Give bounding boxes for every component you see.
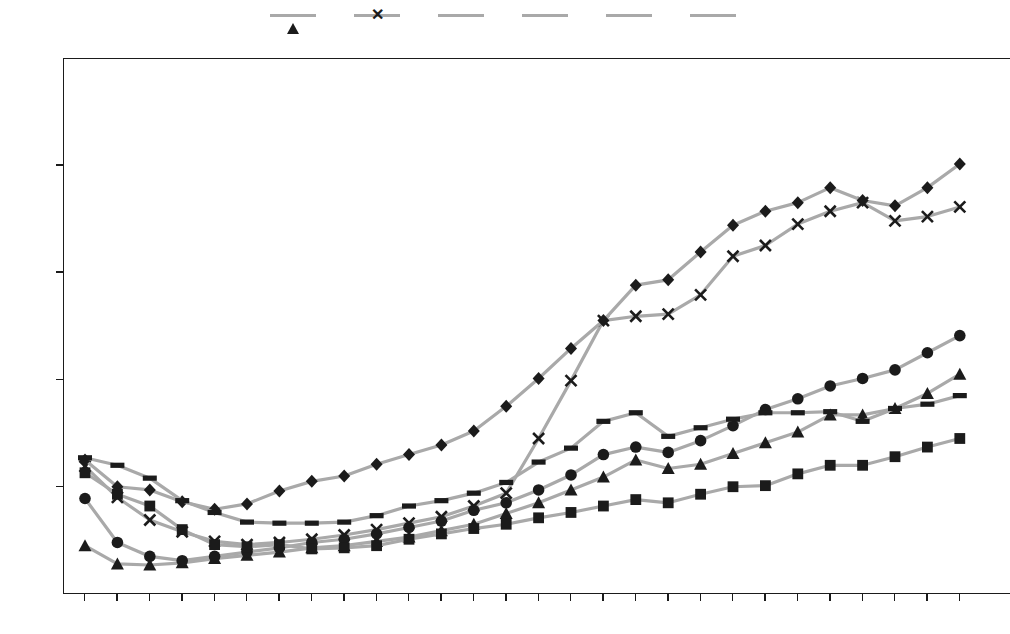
data-point: [79, 493, 91, 505]
data-point: [888, 406, 902, 411]
x-axis-tick-mark: [570, 594, 571, 601]
x-axis-tick-mark: [829, 594, 830, 601]
data-point: [80, 467, 91, 478]
data-point: [436, 515, 448, 527]
legend-item-belarus[interactable]: [438, 8, 488, 22]
series-line: [85, 164, 960, 509]
series-ukraine: [78, 393, 967, 526]
data-point: [209, 539, 220, 550]
data-point: [953, 368, 966, 380]
y-axis-tick-mark: [56, 486, 63, 488]
data-point: [177, 524, 188, 535]
data-point: [759, 205, 771, 218]
data-point: [728, 481, 739, 492]
series-line: [85, 203, 960, 545]
legend-item-moldova[interactable]: [606, 8, 656, 22]
dash-marker-icon: [690, 8, 736, 22]
data-point: [954, 433, 965, 444]
x-axis-tick-mark: [278, 594, 279, 601]
data-point: [791, 426, 804, 438]
data-point: [175, 498, 189, 503]
data-point: [726, 417, 740, 422]
data-point: [402, 503, 416, 508]
data-point: [272, 521, 286, 526]
data-point: [890, 451, 901, 462]
data-point: [695, 289, 706, 300]
data-point: [921, 387, 934, 399]
x-axis-tick-mark: [700, 594, 701, 601]
data-point: [144, 501, 155, 512]
data-point: [922, 347, 934, 359]
data-point: [434, 498, 448, 503]
y-axis-tick-mark: [56, 271, 63, 273]
data-point: [273, 485, 285, 498]
data-point: [758, 410, 772, 415]
data-point: [824, 380, 836, 392]
series-georgia: [79, 330, 965, 567]
data-point: [663, 497, 674, 508]
data-point: [371, 528, 383, 540]
legend-item-georgia[interactable]: [522, 8, 572, 22]
data-point: [953, 393, 967, 398]
data-point: [467, 491, 481, 496]
x-axis-tick-mark: [440, 594, 441, 601]
data-point: [371, 458, 383, 471]
data-point: [468, 505, 480, 517]
data-point: [110, 463, 124, 468]
data-point: [566, 507, 577, 518]
data-point: [630, 441, 642, 453]
data-point: [176, 555, 188, 567]
data-point: [533, 484, 545, 496]
square-marker-icon: [606, 8, 652, 22]
x-axis-tick-mark: [732, 594, 733, 601]
data-point: [240, 520, 254, 525]
data-point: [468, 523, 479, 534]
data-point: [305, 521, 319, 526]
data-point: [695, 435, 707, 447]
data-point: [208, 510, 222, 515]
data-point: [889, 199, 901, 212]
data-point: [954, 330, 966, 342]
x-axis-tick-mark: [181, 594, 182, 601]
x-axis-tick-mark: [408, 594, 409, 601]
series-line: [85, 336, 960, 561]
x-axis-tick-mark: [764, 594, 765, 601]
data-point: [629, 410, 643, 415]
x-axis-tick-mark: [926, 594, 927, 601]
data-point: [598, 449, 610, 461]
chart-root: ✕: [0, 0, 1010, 634]
data-point: [499, 480, 513, 485]
legend-item-armenia[interactable]: [270, 8, 320, 22]
data-point: [403, 448, 415, 461]
data-point: [112, 489, 123, 500]
data-point: [920, 402, 934, 407]
data-point: [564, 446, 578, 451]
legend-item-azerbaijan[interactable]: ✕: [354, 8, 404, 22]
x-axis-tick-mark: [214, 594, 215, 601]
data-point: [760, 480, 771, 491]
data-point: [371, 540, 382, 551]
x-axis-tick-mark: [84, 594, 85, 601]
legend-item-ukraine[interactable]: [690, 8, 740, 22]
series-line: [85, 438, 960, 548]
y-axis-tick-mark: [56, 379, 63, 381]
plot-area: [63, 58, 1010, 594]
data-point: [144, 483, 156, 496]
data-point: [209, 551, 221, 563]
data-point: [306, 475, 318, 488]
data-point: [824, 181, 836, 194]
data-point: [629, 453, 642, 465]
data-point: [662, 447, 674, 459]
data-point: [112, 537, 124, 549]
data-point: [566, 375, 577, 386]
data-point: [857, 373, 869, 385]
x-axis-tick-mark: [473, 594, 474, 601]
data-point: [792, 468, 803, 479]
data-point: [792, 393, 804, 405]
data-point: [630, 494, 641, 505]
x-axis-tick-mark: [667, 594, 668, 601]
data-point: [922, 442, 933, 453]
data-point: [435, 438, 447, 451]
data-point: [598, 501, 609, 512]
data-point: [339, 542, 350, 553]
